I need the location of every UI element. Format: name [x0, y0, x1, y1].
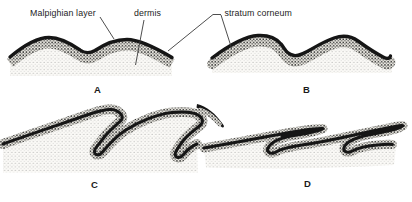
panel-a: [10, 38, 172, 77]
panel-b: [212, 35, 392, 73]
skin-cross-section-svg: Malpighian layer dermis stratum corneum …: [0, 0, 412, 202]
panel-d-letter: D: [304, 178, 311, 189]
stratum-corneum-leader-line: [168, 15, 232, 52]
panel-b-letter: B: [303, 84, 310, 95]
skin-fold-diagram: Malpighian layer dermis stratum corneum …: [0, 0, 412, 202]
stratum-corneum-label: stratum corneum: [225, 8, 293, 18]
panel-c-letter: C: [91, 179, 98, 190]
malpighian-leader-line: [100, 17, 114, 39]
dermis-label: dermis: [134, 8, 161, 18]
panel-c: [3, 109, 202, 172]
panel-a-letter: A: [94, 84, 101, 95]
malpighian-layer-label: Malpighian layer: [30, 8, 96, 18]
panel-d: [197, 104, 404, 169]
